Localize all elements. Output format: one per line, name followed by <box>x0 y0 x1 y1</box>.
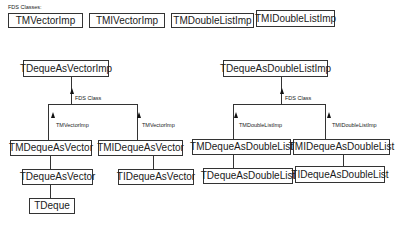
link-label-tmvectorimp: TMVectorImp <box>142 122 175 128</box>
connector <box>325 104 326 141</box>
connector <box>137 104 138 141</box>
class-tdequeasdoublelistimp: TDequeAsDoubleListImp <box>223 60 328 77</box>
inheritance-arrow-icon <box>137 112 141 118</box>
fds-class-tmvectorimp: TMVectorImp <box>8 13 83 28</box>
fds-classes-caption: FDS Classes: <box>8 4 42 10</box>
fds-class-tmidoublelistimp: TMIDoubleListImp <box>256 10 335 27</box>
link-label-fds-class: FDS Class <box>75 95 101 101</box>
class-tmidequeasdoublelist: TMIDequeAsDoubleList <box>293 139 390 155</box>
fds-class-tmdoublelistimp: TMDoubleListImp <box>171 13 254 28</box>
connector <box>50 185 51 198</box>
connector <box>233 155 234 168</box>
connector <box>50 156 51 169</box>
class-tmidequeasvector: TMIDequeAsVector <box>98 140 183 156</box>
class-tidequeasdoublelist: TIDequeAsDoubleList <box>295 166 385 183</box>
inheritance-arrow-icon <box>70 88 74 94</box>
connector <box>48 104 49 141</box>
link-label-tmidoublelistimp: TMIDoubleListImp <box>332 122 377 128</box>
class-tmdequeasdoublelist: TMDequeAsDoubleList <box>192 139 291 155</box>
class-tdequeasdoublelist: TDequeAsDoubleList <box>203 168 293 184</box>
inheritance-arrow-icon <box>51 112 55 118</box>
class-tdequeasvector: TDequeAsVector <box>22 169 93 185</box>
connector <box>233 104 325 105</box>
inheritance-arrow-icon <box>234 112 238 118</box>
connector <box>48 104 137 105</box>
inheritance-arrow-icon <box>280 88 284 94</box>
link-label-fds-class: FDS Class <box>285 95 311 101</box>
link-label-tmvectorimp: TMVectorImp <box>56 122 89 128</box>
class-tmdequeasvector: TMDequeAsVector <box>10 140 92 156</box>
class-tidequeasvector: TIDequeAsVector <box>118 169 194 185</box>
connector <box>233 104 234 141</box>
class-tdeque: TDeque <box>29 198 75 214</box>
fds-class-tmivectorimp: TMIVectorImp <box>89 13 165 28</box>
connector <box>153 156 154 169</box>
class-tdequeasvectorimp: TDequeAsVectorImp <box>23 60 109 77</box>
inheritance-arrow-icon <box>327 112 331 118</box>
link-label-tmdoublelistimp: TMDoubleListImp <box>239 122 282 128</box>
